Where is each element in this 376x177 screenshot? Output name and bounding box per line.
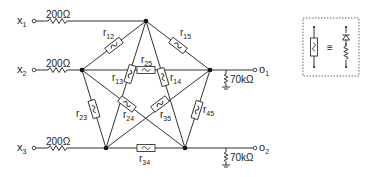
label-o1-load: 70kΩ [230,74,254,85]
label-x2: x2 [17,63,26,77]
memristor-r13 [124,64,136,83]
memristor-r45 [191,100,203,119]
label-r24: r24 [123,109,134,122]
label-x2-resistor: 200Ω [46,58,70,69]
equivalence-symbol: ≡ [327,42,333,53]
legend-memristor-icon [311,26,318,68]
legend-box: ≡ [303,18,359,76]
resistor-70k-icon [224,74,228,83]
resistor-70k-icon [224,152,228,161]
label-r34: r34 [139,153,150,166]
memristor-r34 [137,145,155,152]
terminal-o1 [253,68,257,72]
label-r15: r15 [180,27,191,40]
network-edges [82,21,210,148]
label-x1: x1 [17,14,26,28]
label-x1-resistor: 200Ω [46,9,70,20]
label-x3: x3 [17,141,26,155]
label-r13: r13 [112,72,123,85]
label-r45: r45 [203,104,214,117]
legend-diode-resistor-icon [342,26,350,68]
label-r14: r14 [170,72,181,85]
label-o1: o1 [259,63,269,77]
label-r23: r23 [76,108,87,121]
label-o2: o2 [259,141,269,155]
junction-nodes [80,19,213,151]
label-r25: r25 [141,54,152,67]
terminal-x1 [32,19,36,23]
terminal-x3 [32,146,36,150]
label-r12: r12 [103,27,114,40]
label-o2-load: 70kΩ [230,152,254,163]
memristor-r23 [88,99,100,118]
terminal-x2 [32,68,36,72]
label-r35: r35 [160,109,171,122]
label-x3-resistor: 200Ω [46,136,70,147]
terminal-o2 [253,146,257,150]
memristor-r25 [137,67,155,74]
